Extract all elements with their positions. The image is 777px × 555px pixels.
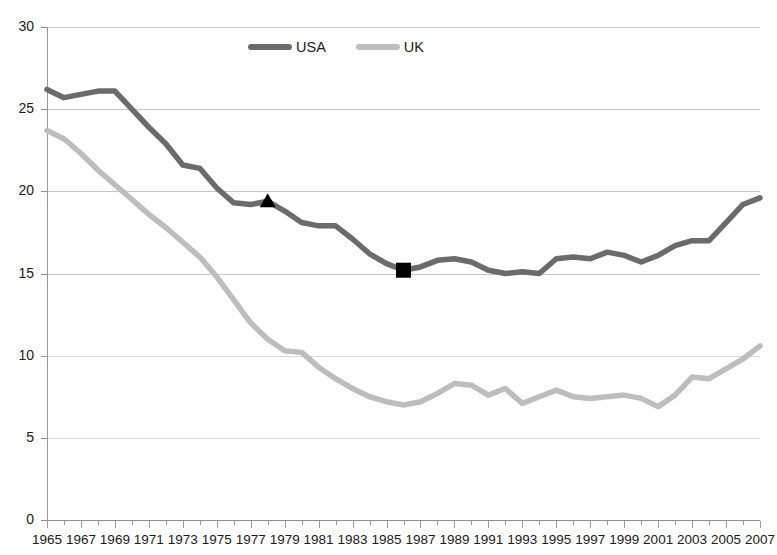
usa-square-marker (396, 263, 411, 278)
line-usa (47, 89, 760, 273)
chart-canvas: Figure 1. Employment in Manufacturing, 1… (0, 0, 777, 555)
series-layer (0, 0, 777, 555)
